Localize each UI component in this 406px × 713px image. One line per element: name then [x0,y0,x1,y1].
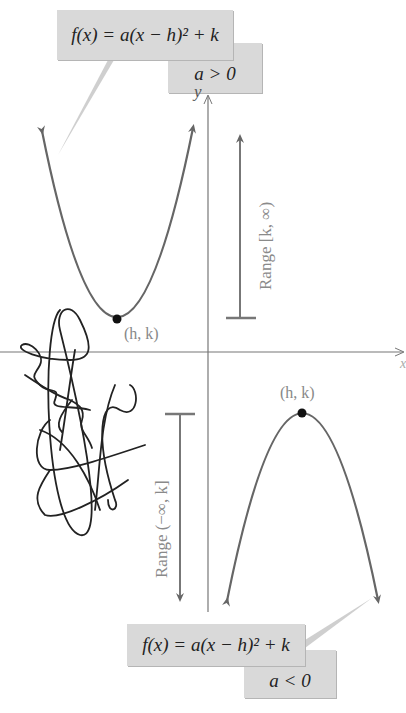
handwritten-scribble [21,309,145,535]
range-label-top: Range [k, ∞) [256,202,276,290]
formula-text-bottom: f(x) = a(x − h)² + k [142,634,290,656]
formula-box-top: f(x) = a(x − h)² + k [57,10,233,60]
range-label-bottom: Range (−∞, k] [152,480,172,578]
vertex-point-bottom [298,409,307,418]
formula-box-bottom: f(x) = a(x − h)² + k [127,624,305,666]
callout-pointer-top [58,60,114,155]
parabola-upward [42,128,193,317]
callout-pointer-bottom [305,598,372,648]
condition-text-bottom: a < 0 [269,670,310,692]
vertex-label-top: (h, k) [124,325,159,343]
y-axis-label: y [194,82,202,102]
vertex-label-bottom: (h, k) [280,384,315,402]
formula-text-top: f(x) = a(x − h)² + k [71,24,219,46]
parabola-diagram [0,0,406,713]
parabola-downward [227,413,378,601]
vertex-point-top [113,315,122,324]
x-axis-label: x [400,356,406,372]
